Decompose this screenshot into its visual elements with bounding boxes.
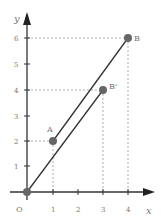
dashed-guides [27,38,128,192]
point-a [49,137,57,145]
x-tick-label-1: 1 [51,206,55,214]
y-tick-label-3: 3 [14,113,18,121]
y-tick-label-4: 4 [14,87,19,95]
x-tick-label-2: 2 [76,206,80,214]
point-o [23,188,31,196]
y-tick-label-5: 5 [14,61,18,69]
point-b-prime [99,86,107,94]
point-b-prime-label: B' [109,82,117,91]
x-tick-label-3: 3 [101,206,105,214]
x-axis-arrow-icon [143,188,155,196]
y-axis-arrow-icon [23,12,31,25]
y-tick-label-6: 6 [14,35,19,43]
y-axis-label: y [13,13,20,24]
axes [10,22,146,200]
segment-ob-prime [27,90,103,192]
coordinate-diagram: y x O 1 2 3 4 1 2 3 4 5 6 A B B' [0,0,161,222]
point-b [124,34,132,42]
x-tick-label-4: 4 [126,206,131,214]
origin-label: O [16,205,23,214]
point-a-label: A [46,125,53,134]
y-tick-label-1: 1 [14,163,18,171]
x-axis-label: x [146,205,152,216]
y-tick-label-2: 2 [14,138,18,146]
point-b-label: B [134,34,140,43]
